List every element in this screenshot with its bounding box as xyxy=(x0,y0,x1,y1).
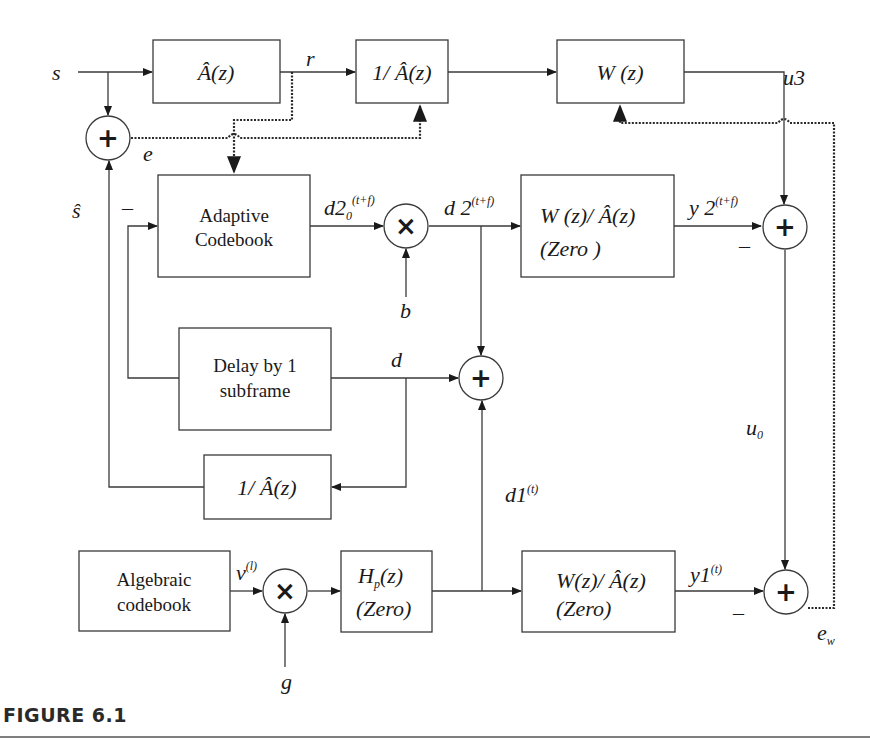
algebraic-line2: codebook xyxy=(117,594,191,615)
block-w-over-a-lower: W(z)/ Â(z) (Zero) xyxy=(522,551,675,632)
sum-node-lower-right: + xyxy=(764,570,808,614)
label-d20: d20(t+f) xyxy=(324,193,375,223)
sum-node-middle: + xyxy=(459,356,503,400)
wa-upper-line1: W (z)/ Â(z) xyxy=(540,203,635,228)
multiply-node-algebraic: × xyxy=(263,569,307,613)
label-b: b xyxy=(400,298,411,323)
label-s: s xyxy=(52,60,61,85)
sum-node-upper-right: + xyxy=(763,205,807,249)
delay-line1: Delay by 1 xyxy=(213,355,296,376)
times-icon: × xyxy=(274,576,296,606)
adaptive-line2: Codebook xyxy=(195,229,274,250)
label-g: g xyxy=(281,669,292,694)
wire-w-to-sum-upper xyxy=(684,72,784,204)
label-ew: ew xyxy=(817,620,835,648)
times-icon: × xyxy=(395,211,417,241)
plus-icon: + xyxy=(470,363,492,393)
multiply-node-adaptive: × xyxy=(384,204,428,248)
adaptive-line1: Adaptive xyxy=(199,205,269,226)
minus-sign-y2: – xyxy=(738,233,751,258)
hp-line2: (Zero) xyxy=(356,596,411,621)
block-a-hat-label: Â(z) xyxy=(196,60,235,85)
label-d1: d1(t) xyxy=(505,482,538,507)
label-e: e xyxy=(143,141,153,166)
label-s-hat: ŝ xyxy=(72,198,81,223)
block-algebraic-codebook: Algebraic codebook xyxy=(79,551,230,631)
label-u3: u3 xyxy=(783,65,805,90)
label-d2: d 2(t+f) xyxy=(444,194,494,220)
block-adaptive-codebook: Adaptive Codebook xyxy=(158,175,310,277)
block-w-over-a-upper: W (z)/ Â(z) (Zero ) xyxy=(521,175,674,277)
figure-caption: FIGURE 6.1 xyxy=(3,704,127,726)
wa-lower-line1: W(z)/ Â(z) xyxy=(556,568,646,593)
block-inv-a-hat-top-label: 1/ Â(z) xyxy=(372,60,431,85)
algebraic-line1: Algebraic xyxy=(117,569,192,590)
block-diagram: Â(z) 1/ Â(z) W (z) Adaptive Codebook W (… xyxy=(0,0,870,739)
label-u0: u0 xyxy=(746,415,763,442)
hp-line1: Hp(z) xyxy=(357,563,403,591)
label-d: d xyxy=(391,347,403,372)
block-w: W (z) xyxy=(557,40,684,103)
block-hp: Hp(z) (Zero) xyxy=(341,551,432,632)
delay-line2: subframe xyxy=(220,380,291,401)
block-w-label: W (z) xyxy=(596,60,643,85)
block-inv-a-hat-top: 1/ Â(z) xyxy=(356,40,448,103)
block-inv-a-hat-bottom: 1/ Â(z) xyxy=(204,455,331,519)
plus-icon: + xyxy=(775,577,797,607)
label-y1: y1(t) xyxy=(688,562,722,587)
block-delay: Delay by 1 subframe xyxy=(179,328,331,430)
block-inv-a-hat-bottom-label: 1/ Â(z) xyxy=(237,475,296,500)
block-a-hat: Â(z) xyxy=(153,40,280,103)
minus-sign-adaptive: – xyxy=(121,195,134,220)
minus-sign-y1: – xyxy=(732,600,745,625)
sum-node-input: + xyxy=(86,116,130,160)
label-v: v(l) xyxy=(236,559,257,585)
wa-upper-line2: (Zero ) xyxy=(540,236,601,261)
plus-icon: + xyxy=(97,123,119,153)
label-r: r xyxy=(306,46,315,71)
wa-lower-line2: (Zero) xyxy=(556,596,611,621)
plus-icon: + xyxy=(774,212,796,242)
wire-d-to-invahat-lower xyxy=(332,378,406,487)
label-y2: y 2(t+f) xyxy=(687,194,738,220)
dotted-e-to-invahat xyxy=(131,106,420,138)
